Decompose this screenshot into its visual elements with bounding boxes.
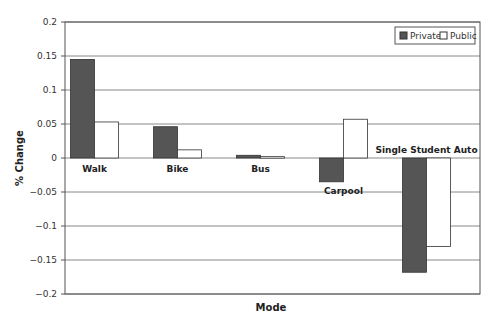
bar-public bbox=[178, 150, 202, 158]
bar-private bbox=[320, 158, 344, 182]
y-tick-label: −0.15 bbox=[29, 255, 57, 265]
y-tick-label: 0.15 bbox=[37, 51, 57, 61]
legend-swatch-private bbox=[400, 32, 407, 39]
bar-public bbox=[261, 157, 285, 159]
bar-chart: 0.20.150.10.050−0.05−0.1−0.15−0.2 WalkBi… bbox=[0, 0, 489, 328]
y-tick-label: 0 bbox=[51, 153, 57, 163]
y-tick-label: −0.1 bbox=[35, 221, 57, 231]
bar-private bbox=[71, 59, 95, 158]
y-tick-label: −0.2 bbox=[35, 289, 57, 299]
bar-private bbox=[154, 127, 178, 158]
bar-public bbox=[427, 158, 451, 246]
bar-private bbox=[403, 158, 427, 272]
legend-label-private: Private bbox=[410, 31, 442, 41]
legend: Private Public bbox=[395, 27, 477, 44]
category-label: Bike bbox=[167, 164, 189, 174]
category-label: Bus bbox=[251, 164, 270, 174]
y-tick-label: −0.05 bbox=[29, 187, 57, 197]
legend-label-public: Public bbox=[450, 31, 477, 41]
category-label: Carpool bbox=[324, 186, 363, 196]
x-axis-title: Mode bbox=[256, 302, 287, 313]
y-tick-label: 0.1 bbox=[43, 85, 57, 95]
bar-public bbox=[344, 119, 368, 158]
bar-private bbox=[237, 155, 261, 158]
bar-public bbox=[95, 122, 119, 158]
legend-swatch-public bbox=[440, 32, 447, 39]
category-label: Single Student Auto bbox=[375, 145, 477, 155]
y-axis-ticks: 0.20.150.10.050−0.05−0.1−0.15−0.2 bbox=[29, 17, 65, 299]
y-axis-title: % Change bbox=[14, 130, 25, 186]
y-tick-label: 0.2 bbox=[43, 17, 57, 27]
category-label: Walk bbox=[82, 164, 108, 174]
y-tick-label: 0.05 bbox=[37, 119, 57, 129]
